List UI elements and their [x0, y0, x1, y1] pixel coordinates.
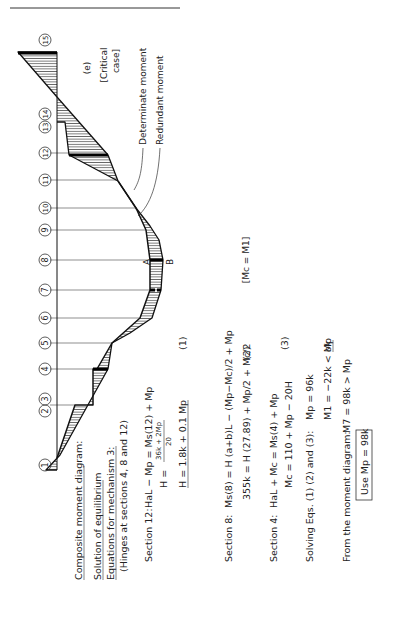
section4-equation: HaL + Mc = Ms(4) + Mp	[268, 393, 279, 508]
from-diagram-label: From the moment diagram:	[341, 431, 352, 562]
section-label-5: 5	[41, 340, 50, 345]
from-diagram-equation: M7 = 98k > Mp	[341, 359, 352, 433]
redundant-leader-arrow	[138, 148, 160, 216]
section8-equation-2: 355k = H (27.89) + Mp/2 + Mc/2	[241, 343, 252, 500]
section-label-4: 4	[41, 366, 50, 371]
legend-redundant-moment: Redundant moment	[155, 55, 165, 145]
section12-h-result: H = 1.8k + 0.1 Mp	[177, 400, 188, 488]
section-label-15: 15	[42, 36, 50, 45]
panel-label: (e)	[82, 62, 92, 75]
section-markers: 1 2 3 4 5 6 7 8 9 10 11 12 13 14 15	[39, 34, 51, 471]
critical-case-line2: case]	[111, 49, 121, 73]
section12-label: Section 12:	[143, 508, 154, 562]
page-canvas: 1 2 3 4 5 6 7 8 9 10 11 12 13 14 15 A B …	[0, 0, 395, 635]
section-label-2: 2	[41, 408, 50, 413]
equation-tag-1: (1)	[177, 337, 188, 350]
heading-composite: Composite moment diagram:	[73, 441, 84, 580]
section8-equation: Ms(8) = H (a+b)L − (Mp−Mc)/2 + Mp	[223, 330, 234, 508]
equation-tag-3: (3)	[279, 337, 290, 350]
critical-case-line1: [Critical	[99, 48, 109, 83]
section12-h-numerator: 36k + 2Mp	[155, 421, 163, 460]
point-a-label: A	[142, 258, 152, 265]
ok-mark: ok	[322, 340, 333, 352]
section-label-9: 9	[41, 227, 50, 232]
section-label-6: 6	[41, 315, 50, 320]
heading-solution: Solution of equilibrium	[92, 472, 103, 580]
mc-equals-m1-note: [Mc = M1]	[241, 237, 251, 284]
section12-equation: HaL − Mp = Ms(12) + Mp	[143, 387, 154, 508]
section12-h-denominator: 20	[165, 437, 173, 446]
solving-label: Solving Eqs. (1) (2) and (3):	[304, 431, 315, 562]
section-label-10: 10	[42, 204, 50, 213]
equation-tag-2: (2)	[241, 347, 252, 360]
section4-equation-2: Mc = 110 + Mp − 20H	[283, 381, 294, 488]
heading-equations: Equations for mechanism 3:	[105, 447, 116, 580]
section-label-11: 11	[42, 176, 50, 185]
section-label-8: 8	[41, 257, 50, 262]
section-label-14: 14	[42, 109, 50, 118]
determinate-leader-arrow	[134, 148, 143, 190]
legend-determinate-moment: Determinate moment	[138, 47, 148, 145]
section-label-1: 1	[41, 462, 50, 467]
section-label-13: 13	[42, 123, 50, 132]
section-label-7: 7	[41, 287, 50, 292]
use-mp-result: Use Mp = 98k	[359, 428, 370, 495]
hinges-note: (Hinges at sections 4, 8 and 12)	[118, 420, 129, 572]
section-label-12: 12	[42, 149, 50, 158]
solution-text-block: Composite moment diagram: Solution of eq…	[73, 330, 372, 580]
section12-h-lhs: H =	[158, 470, 169, 488]
textbook-page: 1 2 3 4 5 6 7 8 9 10 11 12 13 14 15 A B …	[0, 0, 395, 635]
solve-mp: Mp = 96k	[304, 374, 315, 420]
section-label-3: 3	[41, 396, 50, 401]
section4-label: Section 4:	[268, 514, 279, 562]
point-b-label: B	[165, 259, 175, 265]
section8-label: Section 8:	[223, 514, 234, 562]
